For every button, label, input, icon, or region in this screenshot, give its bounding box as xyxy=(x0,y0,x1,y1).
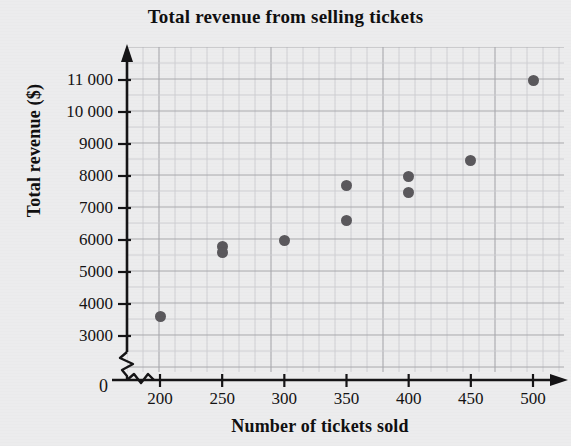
y-axis-tick-label: 11 000 xyxy=(21,71,113,88)
data-point xyxy=(403,187,414,198)
plot-area xyxy=(127,47,564,372)
grid-lines xyxy=(127,47,564,372)
x-axis-title: Number of tickets sold xyxy=(110,416,530,437)
data-point xyxy=(217,247,228,258)
x-axis-tick-label: 300 xyxy=(254,390,314,407)
data-point xyxy=(279,235,290,246)
y-axis-tick-label: 10 000 xyxy=(21,103,113,120)
y-axis-tick-label: 3000 xyxy=(21,327,113,344)
chart-title: Total revenue from selling tickets xyxy=(0,6,571,28)
y-axis-tick-label: 5000 xyxy=(21,263,113,280)
x-axis-tick-label: 500 xyxy=(503,390,563,407)
x-axis-tick-label: 250 xyxy=(192,390,252,407)
data-point xyxy=(403,171,414,182)
y-axis-tick-label: 6000 xyxy=(21,231,113,248)
y-axis-tick-label: 4000 xyxy=(21,295,113,312)
y-axis-tick-label: 9000 xyxy=(21,135,113,152)
x-axis-tick-label: 400 xyxy=(379,390,439,407)
y-axis-tick-label: 7000 xyxy=(21,199,113,216)
x-axis-tick-label: 200 xyxy=(130,390,190,407)
data-point xyxy=(155,311,166,322)
x-axis-tick-label: 450 xyxy=(441,390,501,407)
data-point xyxy=(465,155,476,166)
x-axis-tick-label: 350 xyxy=(317,390,377,407)
chart-figure: Total revenue from selling tickets Total… xyxy=(0,0,571,446)
data-point xyxy=(528,75,539,86)
origin-tick-label: 0 xyxy=(99,376,108,397)
y-axis-tick-label: 8000 xyxy=(21,167,113,184)
